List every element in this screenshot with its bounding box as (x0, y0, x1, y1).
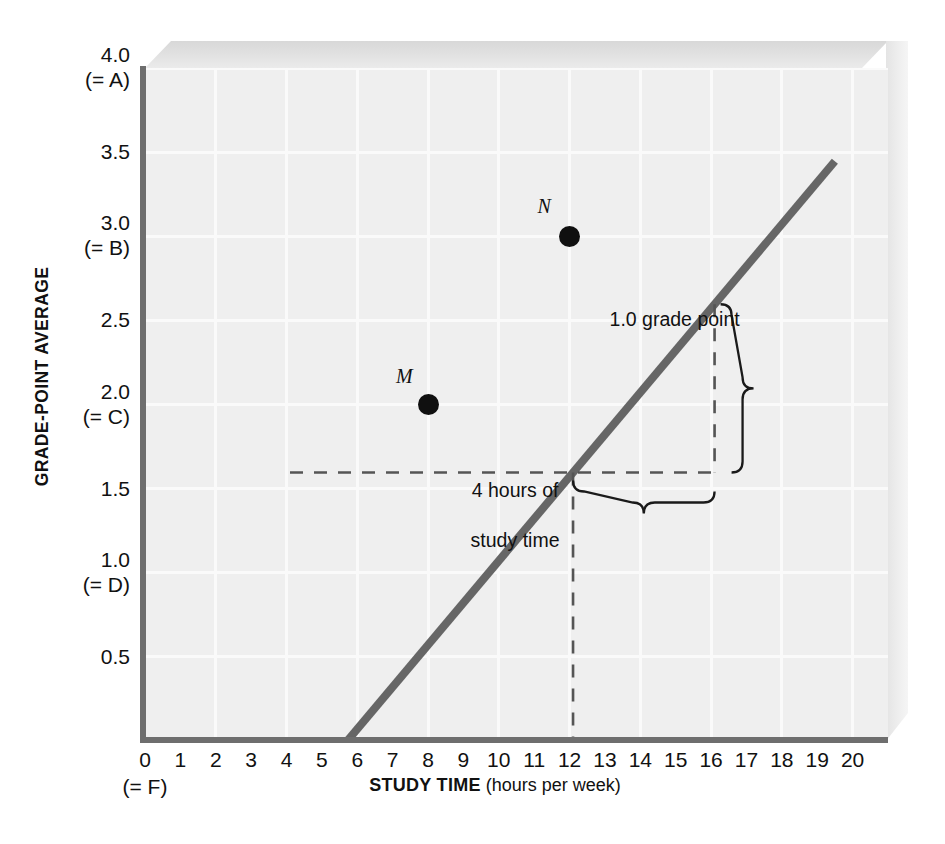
x-tick-6: 6 (337, 748, 377, 772)
data-point-label-n: N (538, 195, 551, 218)
series-line-gpa (290, 161, 835, 741)
y-tick-2.0: 2.0(= C) (60, 379, 130, 429)
x-axis-line (140, 737, 888, 743)
y-tick-grade: (= D) (60, 572, 130, 597)
y-tick-value: 3.0 (60, 210, 130, 235)
gridline-horizontal (145, 68, 888, 70)
x-tick-3: 3 (231, 748, 271, 772)
y-tick-value: 4.0 (60, 42, 130, 67)
y-tick-value: 1.5 (60, 476, 130, 501)
x-tick-5: 5 (302, 748, 342, 772)
x-tick-4: 4 (267, 748, 307, 772)
y-tick-value: 0.5 (60, 644, 130, 669)
x-axis-title: STUDY TIME (hours per week) (280, 775, 710, 796)
x-tick-8: 8 (408, 748, 448, 772)
x-tick-14: 14 (620, 748, 660, 772)
y-tick-1.5: 1.5 (60, 476, 130, 501)
x-axis-title-units: (hours per week) (481, 775, 621, 795)
y-tick-0.5: 0.5 (60, 644, 130, 669)
chart-figure: M N 1.0 grade point 4 hours of study tim… (0, 0, 945, 844)
x-tick-12: 12 (550, 748, 590, 772)
x-tick-20: 20 (833, 748, 873, 772)
run-annotation-label: 4 hours of study time (389, 453, 609, 578)
x-tick-11: 11 (514, 748, 554, 772)
x-tick-18: 18 (762, 748, 802, 772)
x-tick-2: 2 (196, 748, 236, 772)
plot-area: M N 1.0 grade point 4 hours of study tim… (145, 68, 888, 741)
y-tick-grade: (= A) (60, 67, 130, 92)
x-tick-9: 9 (443, 748, 483, 772)
block-top-face (145, 41, 888, 68)
y-tick-value: 3.5 (60, 139, 130, 164)
y-tick-value: 1.0 (60, 547, 130, 572)
data-point-n[interactable] (559, 226, 580, 247)
y-tick-1.0: 1.0(= D) (60, 547, 130, 597)
x-tick-0: 0 (125, 748, 165, 772)
y-tick-3.0: 3.0(= B) (60, 210, 130, 260)
x-tick-13: 13 (585, 748, 625, 772)
data-point-m[interactable] (418, 394, 439, 415)
x-axis-title-bold: STUDY TIME (369, 775, 481, 795)
x-tick-1: 1 (160, 748, 200, 772)
x-tick-10: 10 (479, 748, 519, 772)
rise-annotation-label: 1.0 grade point (610, 307, 740, 332)
y-tick-4.0: 4.0(= A) (60, 42, 130, 92)
y-tick-3.5: 3.5 (60, 139, 130, 164)
y-tick-2.5: 2.5 (60, 307, 130, 332)
y-tick-grade: (= C) (60, 404, 130, 429)
y-tick-value: 2.5 (60, 307, 130, 332)
x-tick-sub-grade-f: (= F) (115, 775, 175, 799)
x-tick-16: 16 (691, 748, 731, 772)
block-right-face (886, 41, 908, 741)
y-axis-title: GRADE-POINT AVERAGE (32, 247, 53, 507)
y-tick-grade: (= B) (60, 235, 130, 260)
data-line-svg (290, 136, 888, 741)
x-tick-7: 7 (373, 748, 413, 772)
y-tick-value: 2.0 (60, 379, 130, 404)
y-axis-line (140, 66, 146, 743)
x-tick-17: 17 (726, 748, 766, 772)
x-tick-19: 19 (797, 748, 837, 772)
data-point-label-m: M (396, 365, 413, 388)
run-annotation-line1: 4 hours of (472, 479, 559, 501)
x-tick-15: 15 (656, 748, 696, 772)
run-annotation-line2: study time (471, 529, 560, 551)
